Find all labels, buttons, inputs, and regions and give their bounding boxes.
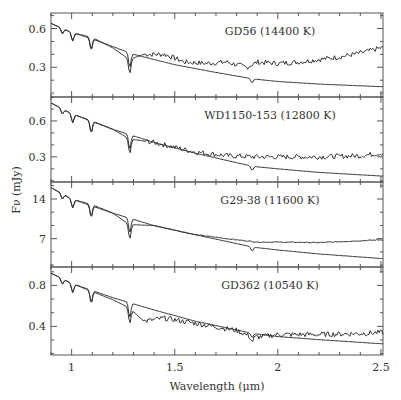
series-observed: [51, 23, 383, 72]
x-tick-label: 1: [68, 361, 75, 374]
panel-title: GD56 (14400 K): [225, 25, 315, 38]
y-axis-title: Fν (mJy): [10, 166, 23, 213]
panel-title: GD362 (10540 K): [221, 279, 318, 292]
x-tick-label: 2: [274, 361, 281, 374]
panel-title: WD1150-153 (12800 K): [204, 109, 336, 122]
spectra-chart: 0.30.6GD56 (14400 K)0.30.6WD1150-153 (12…: [0, 0, 401, 400]
y-tick-label: 14: [32, 193, 46, 206]
panel-2: 0.30.6WD1150-153 (12800 K): [29, 97, 384, 182]
panel-1: 0.30.6GD56 (14400 K): [29, 13, 384, 97]
panel-4: 0.40.8GD362 (10540 K): [29, 267, 384, 355]
x-tick-label: 1.5: [166, 361, 184, 374]
y-tick-label: 0.4: [29, 320, 47, 333]
series-observed: [51, 273, 383, 341]
y-tick-label: 7: [39, 233, 46, 246]
y-tick-label: 0.6: [29, 115, 47, 128]
y-tick-label: 0.3: [29, 61, 47, 74]
series-observed: [51, 188, 383, 243]
x-axis-title: Wavelength (μm): [170, 380, 265, 393]
y-tick-label: 0.3: [29, 151, 47, 164]
y-tick-label: 0.6: [29, 23, 47, 36]
panel-3: 714G29-38 (11600 K): [32, 182, 383, 267]
y-tick-label: 0.8: [29, 279, 47, 292]
panel-title: G29-38 (11600 K): [220, 194, 319, 207]
series-model: [51, 23, 383, 86]
x-tick-label: 2.5: [372, 361, 390, 374]
series-model: [51, 188, 383, 259]
